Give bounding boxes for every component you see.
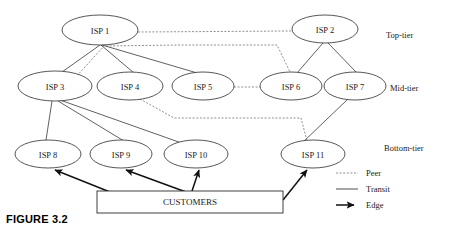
transit-link-isp3-isp10 (60, 100, 190, 146)
tier-label-mid: Mid-tier (390, 83, 418, 93)
node-label-isp6: ISP 6 (282, 82, 300, 92)
tier-labels-group: Top-tierMid-tierBottom-tier (384, 30, 424, 153)
customers-box-group: CUSTOMERS (97, 191, 283, 213)
node-isp7: ISP 7 (324, 72, 386, 100)
node-isp5: ISP 5 (172, 72, 234, 100)
transit-link-isp7-isp11 (302, 99, 348, 143)
peer-link-isp4-isp11 (140, 99, 307, 141)
peer-link-isp1-isp6 (106, 45, 290, 72)
edge-link-customers-isp9 (126, 170, 186, 192)
node-isp1: ISP 1 (62, 15, 138, 45)
node-isp6: ISP 6 (260, 72, 322, 100)
node-isp8: ISP 8 (15, 140, 81, 168)
node-isp9: ISP 9 (90, 140, 152, 168)
node-isp2: ISP 2 (292, 15, 358, 43)
edge-link-customers-isp11 (283, 170, 307, 200)
node-label-isp10: ISP 10 (185, 150, 208, 160)
node-label-isp5: ISP 5 (194, 82, 212, 92)
transit-link-isp2-isp7 (328, 43, 357, 73)
node-label-isp9: ISP 9 (112, 150, 130, 160)
node-isp11: ISP 11 (281, 140, 345, 168)
legend-label-peer: Peer (366, 168, 381, 178)
node-isp10: ISP 10 (164, 140, 228, 168)
customers-box-label: CUSTOMERS (163, 197, 217, 207)
node-label-isp2: ISP 2 (316, 25, 334, 35)
node-isp3: ISP 3 (18, 71, 92, 101)
legend-group: PeerTransitEdge (336, 168, 390, 210)
node-label-isp3: ISP 3 (46, 82, 64, 92)
figure-caption: FIGURE 3.2 (6, 213, 68, 225)
transit-link-isp2-isp6 (297, 43, 323, 73)
edge-link-customers-isp10 (192, 170, 199, 191)
transit-link-isp3-isp8 (46, 101, 52, 140)
edge-link-customers-isp8 (55, 170, 110, 192)
peer-link-isp1-isp2 (138, 31, 292, 32)
legend-item-transit: Transit (336, 184, 390, 194)
isp-hierarchy-diagram: CUSTOMERS ISP 1ISP 2ISP 3ISP 4ISP 5ISP 6… (0, 0, 457, 232)
isp-nodes-group: ISP 1ISP 2ISP 3ISP 4ISP 5ISP 6ISP 7ISP 8… (15, 15, 386, 168)
node-label-isp8: ISP 8 (39, 150, 57, 160)
node-isp4: ISP 4 (97, 72, 163, 100)
legend-item-peer: Peer (336, 168, 381, 178)
node-label-isp4: ISP 4 (121, 82, 140, 92)
legend-item-edge: Edge (336, 200, 384, 210)
legend-label-transit: Transit (366, 184, 390, 194)
node-label-isp7: ISP 7 (346, 82, 364, 92)
tier-label-top: Top-tier (386, 30, 413, 40)
tier-label-bottom: Bottom-tier (384, 143, 424, 153)
legend-label-edge: Edge (366, 200, 384, 210)
transit-link-isp1-isp3 (62, 45, 100, 72)
transit-link-isp3-isp9 (58, 101, 124, 141)
node-label-isp1: ISP 1 (91, 26, 109, 36)
node-label-isp11: ISP 11 (302, 150, 324, 160)
